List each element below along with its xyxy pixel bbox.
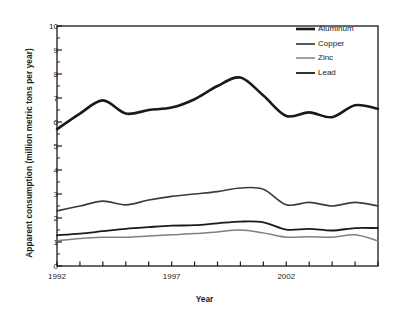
y-tick-label-0: 0 [54, 262, 58, 271]
series-line-aluminum [57, 77, 378, 129]
x-tick-label-1997: 1997 [163, 272, 181, 281]
y-tick-label-5: 5 [54, 142, 58, 151]
y-tick-label-4: 4 [54, 166, 58, 175]
legend-item-aluminum: Aluminum [296, 25, 354, 33]
y-tick-label-10: 10 [49, 22, 58, 31]
x-tick-label-1992: 1992 [48, 272, 66, 281]
y-tick-label-7: 7 [54, 94, 58, 103]
chart-figure: Apparent consumption (million metric ton… [0, 0, 409, 323]
legend-label-aluminum: Aluminum [318, 25, 354, 33]
legend-item-zinc: Zinc [296, 54, 354, 62]
legend-swatch-copper [296, 40, 315, 48]
series-line-lead [57, 221, 378, 235]
legend-label-zinc: Zinc [318, 54, 333, 62]
y-axis-title: Apparent consumption (million metric ton… [24, 28, 34, 278]
legend-item-copper: Copper [296, 40, 354, 48]
y-tick-label-6: 6 [54, 118, 58, 127]
legend-swatch-lead [296, 69, 315, 77]
y-tick-label-3: 3 [54, 190, 58, 199]
legend-label-lead: Lead [318, 69, 336, 77]
legend-label-copper: Copper [318, 40, 344, 48]
legend-swatch-zinc [296, 54, 315, 62]
series-line-copper [57, 187, 378, 210]
chart-legend: Aluminum Copper Zinc Lead [296, 25, 354, 77]
y-tick-label-1: 1 [54, 238, 58, 247]
y-tick-label-9: 9 [54, 46, 58, 55]
x-axis-title: Year [0, 294, 409, 304]
y-tick-label-8: 8 [54, 70, 58, 79]
legend-swatch-aluminum [296, 25, 315, 33]
x-tick-label-2002: 2002 [277, 272, 295, 281]
legend-item-lead: Lead [296, 69, 354, 77]
y-tick-label-2: 2 [54, 214, 58, 223]
